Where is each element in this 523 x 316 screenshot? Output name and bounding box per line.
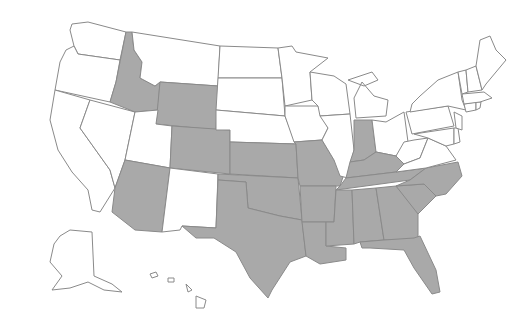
state-ks <box>230 142 298 178</box>
state-ak <box>50 230 122 292</box>
state-mt <box>132 32 220 86</box>
state-sd <box>216 78 285 116</box>
state-co <box>170 126 230 174</box>
state-fl <box>360 236 440 294</box>
state-hi <box>150 272 206 308</box>
state-nj <box>454 112 462 130</box>
state-ar <box>300 186 336 222</box>
state-mi <box>348 72 388 118</box>
state-ma <box>462 92 492 104</box>
state-me <box>476 36 506 90</box>
state-nd <box>218 46 282 78</box>
us-map <box>0 0 523 316</box>
state-de <box>454 128 460 144</box>
state-nm <box>162 168 218 232</box>
state-ri <box>476 102 481 110</box>
state-az <box>112 160 170 232</box>
state-wy <box>156 82 218 130</box>
state-ny <box>410 72 466 112</box>
